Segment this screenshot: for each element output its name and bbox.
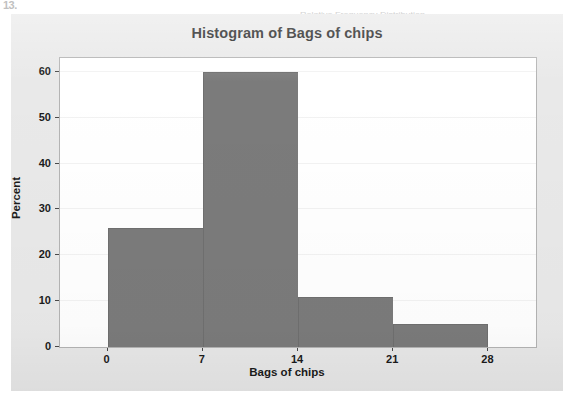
histogram-figure: Histogram of Bags of chips Percent 01020… — [11, 14, 563, 391]
y-tick-label: 0 — [25, 340, 51, 352]
gridline — [60, 71, 536, 72]
x-tick-label: 21 — [386, 353, 398, 365]
x-tick-label: 0 — [104, 353, 110, 365]
histogram-bar — [203, 72, 298, 347]
x-tick-label: 14 — [291, 353, 303, 365]
y-axis-title: Percent — [10, 168, 22, 228]
histogram-bar — [108, 228, 203, 347]
y-tick-label: 30 — [25, 202, 51, 214]
plot-area — [59, 57, 537, 348]
chart-title: Histogram of Bags of chips — [11, 25, 563, 41]
x-tick-label: 28 — [481, 353, 493, 365]
y-tick-label: 60 — [25, 65, 51, 77]
x-axis-title: Bags of chips — [11, 366, 563, 378]
y-tick-label: 10 — [25, 294, 51, 306]
gridline — [60, 163, 536, 164]
y-tick-label: 20 — [25, 248, 51, 260]
scanned-page: 13. Relative Frequency Distribution Hist… — [0, 0, 574, 400]
gridline — [60, 208, 536, 209]
x-tick-label: 7 — [199, 353, 205, 365]
gridline — [60, 117, 536, 118]
histogram-bar — [298, 297, 393, 347]
histogram-bar — [393, 324, 488, 347]
y-tick-label: 50 — [25, 111, 51, 123]
y-tick-label: 40 — [25, 157, 51, 169]
page-number: 13. — [3, 0, 17, 9]
